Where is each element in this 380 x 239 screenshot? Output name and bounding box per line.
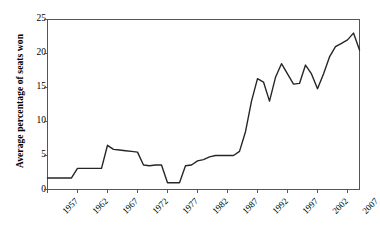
y-axis-ticks [44,20,48,190]
x-axis-ticks [48,190,348,194]
plot-frame [48,20,360,190]
data-series-line [48,33,360,183]
